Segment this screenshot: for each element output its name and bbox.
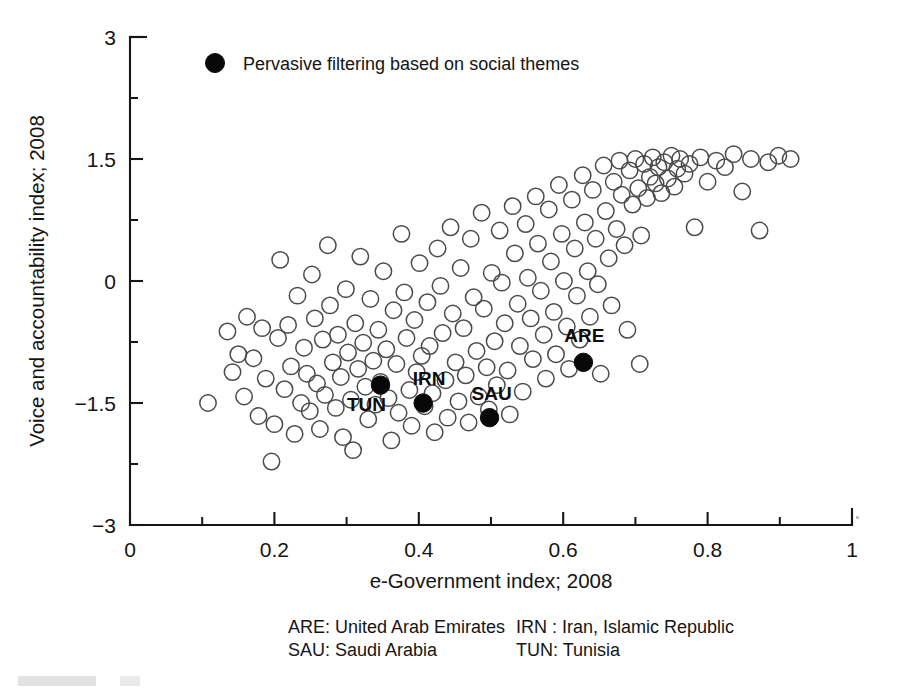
data-point [398, 330, 414, 346]
data-point [567, 240, 583, 256]
y-axis-title: Voice and accountability index; 2008 [25, 115, 48, 447]
data-point [370, 322, 386, 338]
data-point [340, 344, 356, 360]
data-point [347, 315, 363, 331]
data-point [286, 426, 302, 442]
scatter-chart: 00.20.40.60.81−3−1.501.53 TUNIRNSAUARE P… [0, 0, 899, 697]
highlighted-data-point-tun [371, 376, 389, 394]
data-point [530, 235, 546, 251]
scatter-figure: 00.20.40.60.81−3−1.501.53 TUNIRNSAUARE P… [0, 0, 899, 697]
data-point [484, 265, 500, 281]
data-point [458, 367, 474, 383]
point-label-sau: SAU [471, 383, 511, 404]
data-point [699, 174, 715, 190]
data-point [330, 326, 346, 342]
data-point [312, 421, 328, 437]
country-code-key: ARE: United Arab Emirates IRN : Iran, Is… [288, 617, 734, 660]
data-point [751, 222, 767, 238]
data-point [254, 320, 270, 336]
data-point [616, 237, 632, 253]
data-point [315, 331, 331, 347]
data-point [585, 182, 601, 198]
data-point [325, 354, 341, 370]
data-point [320, 237, 336, 253]
highlighted-data-point-irn [414, 394, 432, 412]
data-point [782, 151, 798, 167]
data-point [426, 424, 442, 440]
data-point [355, 335, 371, 351]
data-point [352, 248, 368, 264]
data-point [538, 370, 554, 386]
data-point [299, 366, 315, 382]
data-point [564, 191, 580, 207]
x-tick-label: 1 [846, 538, 858, 561]
data-point [429, 240, 445, 256]
data-point [276, 381, 292, 397]
data-point [497, 315, 513, 331]
data-point [258, 370, 274, 386]
data-point [350, 361, 366, 377]
data-point [619, 322, 635, 338]
data-point [411, 255, 427, 271]
data-point [743, 151, 759, 167]
data-point [494, 274, 510, 290]
data-point [307, 310, 323, 326]
data-point [734, 183, 750, 199]
data-point [283, 358, 299, 374]
x-tick-label: 0.6 [549, 538, 578, 561]
data-point [548, 346, 564, 362]
data-point [338, 281, 354, 297]
data-point [603, 297, 619, 313]
data-point [663, 148, 679, 164]
footnote-row-0-left: ARE: United Arab Emirates [288, 617, 505, 637]
data-point [280, 317, 296, 333]
footnote-row-1-right: TUN: Tunisia [516, 640, 621, 660]
data-point [375, 263, 391, 279]
data-point [463, 231, 479, 247]
y-tick-label: −3 [92, 514, 116, 537]
data-point [577, 214, 593, 230]
data-point [445, 305, 461, 321]
data-point [608, 221, 624, 237]
data-point [543, 253, 559, 269]
data-point [515, 383, 531, 399]
data-point [333, 369, 349, 385]
legend-label: Pervasive filtering based on social them… [243, 54, 579, 74]
data-point [385, 302, 401, 318]
data-point [439, 409, 455, 425]
data-point [403, 418, 419, 434]
data-point [390, 405, 406, 421]
data-point [574, 167, 590, 183]
data-point [600, 250, 616, 266]
data-point [533, 283, 549, 299]
data-point [528, 188, 544, 204]
page-caption-fragment [18, 676, 188, 686]
data-point [419, 294, 435, 310]
data-point [224, 364, 240, 380]
data-point [309, 375, 325, 391]
data-point [512, 338, 528, 354]
data-point [434, 325, 450, 341]
data-point [499, 362, 515, 378]
data-point [507, 245, 523, 261]
data-point [598, 203, 614, 219]
data-point [362, 291, 378, 307]
y-tick-label: 0 [104, 270, 116, 293]
data-point [388, 356, 404, 372]
data-point [525, 351, 541, 367]
data-point [272, 252, 288, 268]
data-point [686, 219, 702, 235]
data-point [450, 393, 466, 409]
data-point [289, 287, 305, 303]
scan-speck [856, 516, 859, 519]
data-point [541, 201, 557, 217]
data-point [554, 226, 570, 242]
data-point [593, 366, 609, 382]
data-point [595, 157, 611, 173]
y-tick-label: 1.5 [87, 148, 116, 171]
data-point [632, 356, 648, 372]
data-point [491, 222, 507, 238]
data-point [478, 359, 494, 375]
data-point [633, 227, 649, 243]
x-tick-label: 0.4 [404, 538, 434, 561]
